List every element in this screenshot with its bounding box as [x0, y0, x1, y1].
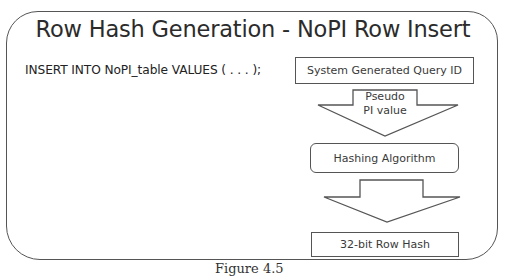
figure-caption: Figure 4.5: [215, 261, 284, 276]
arrow-down-icon: [324, 180, 460, 222]
step-label: 32-bit Row Hash: [340, 238, 430, 251]
step-query-id: System Generated Query ID: [295, 57, 474, 84]
step-label: Hashing Algorithm: [333, 152, 435, 165]
step-hashing-algorithm: Hashing Algorithm: [310, 143, 459, 173]
arrow-label-pseudo-pi: Pseudo PI value: [353, 90, 417, 118]
step-row-hash: 32-bit Row Hash: [311, 232, 459, 257]
step-label: System Generated Query ID: [307, 64, 462, 77]
